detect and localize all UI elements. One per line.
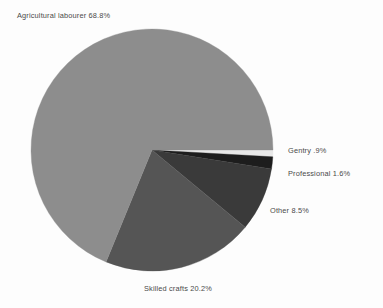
pie-label-professional: Professional 1.6%: [288, 170, 350, 178]
pie-label-skilled-crafts: Skilled crafts 20.2%: [144, 285, 212, 293]
pie-label-other: Other 8.5%: [270, 207, 309, 215]
pie-chart-figure: Agricultural labourer 68.8% Gentry .9% P…: [0, 0, 383, 308]
pie-slice-group: [31, 29, 273, 271]
pie-label-agricultural-labourer: Agricultural labourer 68.8%: [17, 12, 110, 20]
pie-label-gentry: Gentry .9%: [288, 147, 326, 155]
